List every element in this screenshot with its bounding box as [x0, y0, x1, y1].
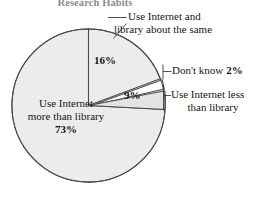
- slice-label-less-than-library-line2: than library: [171, 101, 255, 114]
- slice-label-more-than-library-line1: Use Internet: [39, 97, 93, 109]
- slice-label-more-than-library: Use Internet more than library 73%: [10, 97, 122, 136]
- slice-label-dont-know-text: Don't know: [172, 64, 223, 76]
- slice-label-dont-know: Don't know2%: [172, 64, 243, 77]
- slice-label-about-the-same: Use Internet and library about the same: [128, 10, 212, 35]
- slice-label-less-than-library: Use Internet less than library: [171, 88, 255, 113]
- slice-value-less-than-library: 9%: [124, 89, 141, 102]
- slice-value-more-than-library: 73%: [10, 123, 122, 136]
- slice-label-more-than-library-line2: more than library: [28, 110, 104, 122]
- slice-label-about-the-same-line1: Use Internet and: [128, 10, 201, 22]
- slice-value-about-the-same: 16%: [94, 54, 116, 67]
- slice-label-less-than-library-line1: Use Internet less: [171, 88, 244, 100]
- pie-chart-figure: Research Habits Use Internet and: [0, 0, 262, 200]
- leader-line-dont-know: [163, 65, 172, 80]
- slice-value-dont-know: 2%: [226, 64, 243, 76]
- slice-label-about-the-same-line2: library about the same: [114, 23, 212, 36]
